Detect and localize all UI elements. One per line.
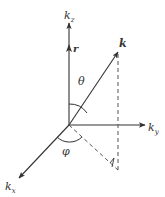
k-projection-xy (69, 125, 118, 170)
phi-arc (57, 137, 82, 142)
kz-label: kz (64, 9, 75, 24)
k-vector (69, 52, 118, 125)
theta-label: θ (78, 75, 85, 88)
spherical-coordinates-diagram: kz r k θ φ ky kx (0, 0, 165, 197)
phi-label: φ (62, 145, 70, 158)
right-angle-icon (110, 158, 114, 167)
k-label: k (119, 37, 127, 50)
kx-label: kx (5, 180, 16, 195)
ky-label: ky (148, 121, 160, 136)
r-label: r (73, 43, 79, 54)
